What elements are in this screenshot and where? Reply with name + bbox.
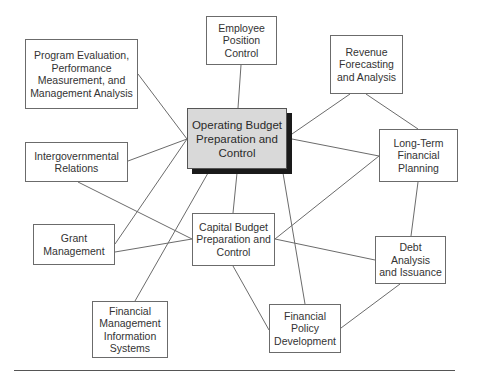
- connector-capital-policy: [233, 266, 269, 330]
- connector-longterm-debt: [411, 182, 418, 236]
- connector-debt-policy: [341, 284, 400, 328]
- node-financial-management-information-systems: Financial Management Information Systems: [92, 301, 168, 358]
- connector-program-operating: [138, 74, 187, 139]
- node-program-evaluation: Program Evaluation, Performance Measurem…: [25, 39, 138, 109]
- connector-operating-policy: [283, 173, 305, 304]
- node-intergovernmental-relations: Intergovernmental Relations: [25, 142, 128, 182]
- connector-operating-revenue: [292, 94, 350, 134]
- node-label: Financial Management Information Systems: [99, 305, 160, 355]
- node-capital-budget: Capital Budget Preparation and Control: [192, 213, 275, 266]
- node-label: Intergovernmental Relations: [34, 150, 119, 175]
- node-label: Revenue Forecasting and Analysis: [337, 46, 396, 84]
- connector-capital-debt: [275, 239, 375, 260]
- node-label: Capital Budget Preparation and Control: [196, 221, 271, 259]
- connector-intergov-operating: [128, 139, 187, 161]
- node-revenue-forecasting: Revenue Forecasting and Analysis: [330, 35, 403, 94]
- node-label: Operating Budget Preparation and Control: [192, 118, 282, 160]
- connector-longterm-capital: [275, 156, 379, 239]
- node-label: Employee Position Control: [218, 22, 265, 60]
- node-operating-budget: Operating Budget Preparation and Control: [187, 108, 287, 169]
- node-label: Debt Analysis and Issuance: [379, 241, 442, 279]
- budget-functions-diagram: Operating Budget Preparation and Control…: [0, 0, 477, 386]
- connector-operating-capital: [233, 173, 237, 213]
- node-label: Long-Term Financial Planning: [393, 137, 443, 175]
- connector-grant-capital: [115, 239, 192, 252]
- node-label: Program Evaluation, Performance Measurem…: [30, 49, 133, 99]
- node-employee-position-control: Employee Position Control: [206, 16, 277, 65]
- node-debt-analysis: Debt Analysis and Issuance: [375, 236, 446, 284]
- node-financial-policy-development: Financial Policy Development: [269, 304, 341, 353]
- node-label: Grant Management: [43, 232, 104, 257]
- connector-employee-operating: [238, 65, 241, 108]
- connector-operating-longterm: [292, 139, 379, 156]
- node-label: Financial Policy Development: [274, 310, 336, 348]
- node-long-term-financial-planning: Long-Term Financial Planning: [379, 129, 458, 182]
- node-grant-management: Grant Management: [33, 224, 115, 265]
- bottom-divider: [14, 370, 455, 371]
- connector-revenue-longterm: [366, 94, 418, 129]
